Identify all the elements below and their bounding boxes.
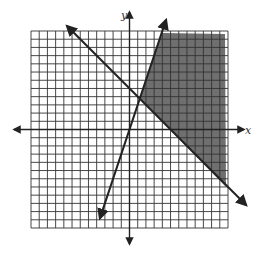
shaded-region [140, 33, 226, 187]
shaded-feasible-region [140, 33, 226, 187]
boundary-steep-line [100, 20, 166, 218]
x-axis-label: x [245, 124, 251, 137]
coordinate-graph [0, 0, 266, 258]
y-axis-label: y [121, 9, 127, 22]
